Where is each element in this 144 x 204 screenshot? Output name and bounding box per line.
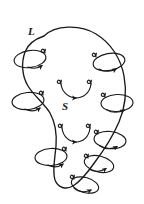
boundary-loop-bottom-left — [34, 147, 67, 166]
interior-curl-lower — [58, 124, 90, 142]
boundary-loop-mid-right — [101, 93, 134, 112]
interior-curl-upper — [57, 80, 91, 98]
stokes-theorem-diagram — [0, 0, 144, 204]
boundary-loop-upper-left — [13, 48, 47, 69]
boundary-loop-upper-right — [92, 51, 126, 73]
surface-label: S — [62, 101, 68, 112]
boundary-curve-label: L — [28, 26, 35, 37]
figure-canvas: L S — [0, 0, 144, 204]
